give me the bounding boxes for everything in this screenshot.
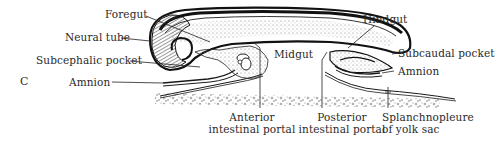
label-neural-tube: Neural tube (65, 31, 130, 43)
label-splanchnopleure-line2: of yolk sac (382, 123, 474, 135)
embryo-diagram: Foregut Neural tube Subcephalic pocket C… (0, 0, 495, 145)
label-amnion-left: Amnion (69, 76, 110, 88)
yolk-sac-band (155, 93, 440, 108)
label-midgut: Midgut (274, 48, 313, 60)
label-splanchnopleure-line1: Splanchnopleure (382, 111, 474, 123)
label-posterior-line1: Posterior (292, 111, 392, 123)
label-posterior-line2: intestinal portal (292, 123, 392, 135)
label-posterior-intestinal-portal: Posterior intestinal portal (292, 111, 392, 135)
label-hindgut: Hindgut (363, 13, 407, 25)
label-anterior-line2: intestinal portal (202, 123, 302, 135)
label-subcaudal-pocket: Subcaudal pocket (398, 47, 495, 59)
label-subcephalic-pocket: Subcephalic pocket (36, 54, 142, 66)
label-foregut: Foregut (105, 8, 148, 20)
label-amnion-right: Amnion (398, 65, 439, 77)
label-anterior-intestinal-portal: Anterior intestinal portal (202, 111, 302, 135)
label-splanchnopleure-of-yolk-sac: Splanchnopleure of yolk sac (382, 111, 474, 135)
label-anterior-line1: Anterior (202, 111, 302, 123)
panel-letter: C (20, 75, 28, 88)
